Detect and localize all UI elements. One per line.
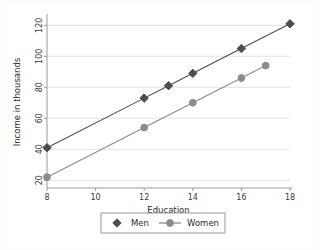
y-tick-label: 60 xyxy=(36,113,45,123)
y-tick-label: 40 xyxy=(36,144,45,154)
x-tick-label: 18 xyxy=(285,193,295,202)
data-point-marker xyxy=(140,94,148,102)
data-point-marker xyxy=(189,99,196,106)
y-tick-label: 100 xyxy=(36,49,45,64)
y-tick-label: 80 xyxy=(36,82,45,92)
grid-lines xyxy=(47,25,290,180)
chart-screenshot: 20406080100120 81012141618 Income in tho… xyxy=(0,0,320,250)
data-point-marker xyxy=(262,62,269,69)
y-axis-title: Income in thousands xyxy=(12,57,22,146)
data-point-marker xyxy=(286,20,294,28)
y-tick-labels: 20406080100120 xyxy=(36,18,45,186)
series-women xyxy=(44,62,270,180)
y-tick-label: 120 xyxy=(36,18,45,33)
x-tick-label: 16 xyxy=(236,193,246,202)
data-point-marker xyxy=(189,69,197,77)
axis-ticks xyxy=(44,25,290,191)
data-series xyxy=(43,20,294,181)
data-point-marker xyxy=(44,174,51,181)
x-tick-label: 8 xyxy=(44,193,49,202)
circle-marker-icon xyxy=(167,220,174,227)
x-tick-label: 12 xyxy=(139,193,149,202)
x-tick-label: 10 xyxy=(91,193,101,202)
legend-label-women: Women xyxy=(187,218,219,228)
x-tick-labels: 81012141618 xyxy=(44,193,295,202)
data-point-marker xyxy=(141,124,148,131)
series-line-women xyxy=(47,66,266,178)
axes xyxy=(47,14,292,188)
data-point-marker xyxy=(237,44,245,52)
x-tick-label: 14 xyxy=(188,193,198,202)
data-point-marker xyxy=(164,82,172,90)
chart-svg: 20406080100120 81012141618 Income in tho… xyxy=(0,0,320,250)
chart-legend: MenWomen xyxy=(101,213,225,233)
series-men xyxy=(43,20,294,152)
data-point-marker xyxy=(238,75,245,82)
legend-label-men: Men xyxy=(131,218,149,228)
legend-item-men[interactable]: Men xyxy=(113,218,149,228)
line-chart: 20406080100120 81012141618 Income in tho… xyxy=(0,0,320,250)
